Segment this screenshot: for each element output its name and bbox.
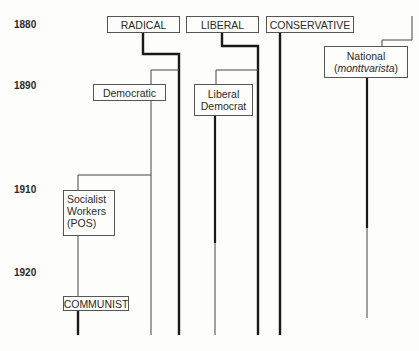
year-label-1890: 1890 [14, 80, 36, 91]
year-label-1910: 1910 [14, 184, 36, 195]
party-national-label: National [347, 50, 386, 62]
party-socialist-line3: (POS) [67, 217, 111, 229]
party-conservative-label: CONSERVATIVE [270, 19, 351, 31]
year-label-1880: 1880 [14, 19, 36, 30]
party-national: National (monttvarista) [324, 46, 408, 78]
party-liberal-democrat: Liberal Democrat [194, 84, 253, 116]
party-liberal-label: LIBERAL [201, 19, 244, 31]
liberal-line [222, 32, 258, 335]
party-socialist-workers: Socialist Workers (POS) [63, 190, 115, 236]
party-communist: COMMUNIST [63, 296, 129, 311]
liberal-democrat-branch [216, 70, 258, 84]
party-socialist-line2: Workers [67, 205, 111, 217]
party-national-subtitle: (monttvarista) [334, 62, 398, 74]
party-liberal: LIBERAL [186, 16, 259, 33]
party-democratic-label: Democratic [103, 87, 156, 99]
radical-line [143, 32, 179, 335]
party-communist-label: COMMUNIST [64, 298, 129, 310]
party-conservative: CONSERVATIVE [266, 16, 354, 33]
socialist-branch [78, 175, 151, 190]
party-radical-label: RADICAL [121, 19, 167, 31]
national-origin [382, 16, 412, 46]
party-radical: RADICAL [107, 16, 180, 33]
party-liberal-democrat-line2: Democrat [201, 100, 247, 112]
democratic-branch [151, 70, 179, 335]
party-democratic: Democratic [93, 84, 166, 101]
year-label-1920: 1920 [14, 267, 36, 278]
party-liberal-democrat-line1: Liberal [208, 88, 240, 100]
party-socialist-line1: Socialist [67, 193, 111, 205]
